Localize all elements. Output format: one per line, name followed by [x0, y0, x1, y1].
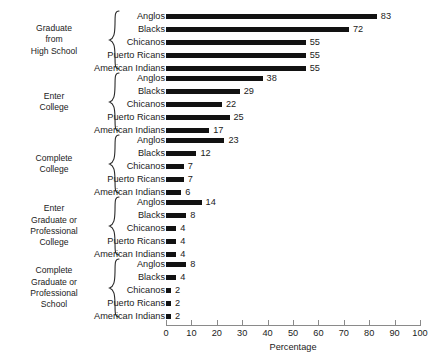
- bar: [166, 14, 377, 20]
- x-axis-tick: [293, 320, 294, 326]
- bar-track: 12: [166, 147, 422, 160]
- bar-track: 55: [166, 36, 422, 49]
- x-axis-tick: [344, 320, 345, 326]
- bar-value-label: 4: [180, 235, 185, 248]
- x-axis-tick: [369, 320, 370, 326]
- x-axis-tick: [242, 320, 243, 326]
- bar-track: 4: [166, 235, 422, 248]
- category-label: Chicanos: [127, 284, 165, 297]
- chart-row: Chicanos7: [0, 160, 436, 173]
- bar: [166, 275, 176, 281]
- bar-track: 38: [166, 72, 422, 85]
- chart-group: Enter CollegeAnglos38Blacks29Chicanos22P…: [0, 68, 436, 136]
- bar-value-label: 29: [244, 85, 254, 98]
- bar: [166, 177, 184, 183]
- bar-track: 14: [166, 196, 422, 209]
- bar-track: 8: [166, 209, 422, 222]
- chart-group: Graduate from High SchoolAnglos83Blacks7…: [0, 6, 436, 74]
- bar-track: 72: [166, 23, 422, 36]
- chart-row: Anglos83: [0, 10, 436, 23]
- bar-track: 7: [166, 173, 422, 186]
- bar-track: 8: [166, 258, 422, 271]
- chart-row: Puerto Ricans4: [0, 235, 436, 248]
- bar-track: 25: [166, 111, 422, 124]
- x-axis-tick: [318, 320, 319, 326]
- chart-row: Anglos8: [0, 258, 436, 271]
- x-axis-tick-label: 60: [313, 327, 323, 339]
- category-label: Blacks: [138, 271, 165, 284]
- category-label: Chicanos: [127, 98, 165, 111]
- category-label: Blacks: [138, 85, 165, 98]
- category-label: Puerto Ricans: [107, 49, 165, 62]
- x-axis-tick-label: 20: [212, 327, 222, 339]
- bar: [166, 138, 224, 144]
- bar-value-label: 55: [310, 36, 320, 49]
- chart-row: Puerto Ricans55: [0, 49, 436, 62]
- category-label: Puerto Ricans: [107, 297, 165, 310]
- x-axis-tick: [268, 320, 269, 326]
- chart-group: Complete Graduate or Professional School…: [0, 254, 436, 322]
- x-axis-tick: [166, 320, 167, 326]
- bar-value-label: 8: [190, 258, 195, 271]
- category-label: Anglos: [137, 134, 165, 147]
- category-label: Anglos: [137, 258, 165, 271]
- bar: [166, 288, 171, 294]
- chart-row: Anglos14: [0, 196, 436, 209]
- chart-row: Chicanos4: [0, 222, 436, 235]
- bar-value-label: 2: [175, 284, 180, 297]
- bar: [166, 102, 222, 108]
- bar-value-label: 25: [234, 111, 244, 124]
- group-rows: Anglos23Blacks12Chicanos7Puerto Ricans7A…: [0, 134, 436, 199]
- bar-track: 83: [166, 10, 422, 23]
- category-label: Puerto Ricans: [107, 111, 165, 124]
- category-label: Puerto Ricans: [107, 173, 165, 186]
- x-axis-tick: [395, 320, 396, 326]
- bar-value-label: 72: [353, 23, 363, 36]
- bar-track: 4: [166, 271, 422, 284]
- bar: [166, 76, 263, 82]
- group-rows: Anglos14Blacks8Chicanos4Puerto Ricans4Am…: [0, 196, 436, 261]
- bar: [166, 164, 184, 170]
- x-axis-tick-label: 10: [186, 327, 196, 339]
- bar-track: 23: [166, 134, 422, 147]
- bar-track: 2: [166, 297, 422, 310]
- bar-track: 7: [166, 160, 422, 173]
- chart-row: Chicanos22: [0, 98, 436, 111]
- group-rows: Anglos38Blacks29Chicanos22Puerto Ricans2…: [0, 72, 436, 137]
- x-axis-tick-label: 30: [237, 327, 247, 339]
- chart-row: Blacks12: [0, 147, 436, 160]
- category-label: Chicanos: [127, 36, 165, 49]
- category-label: Puerto Ricans: [107, 235, 165, 248]
- bar-value-label: 22: [226, 98, 236, 111]
- bar-value-label: 8: [190, 209, 195, 222]
- bar-track: 55: [166, 49, 422, 62]
- chart-row: Blacks4: [0, 271, 436, 284]
- x-axis-tick: [420, 320, 421, 326]
- bar-value-label: 7: [188, 160, 193, 173]
- bar-value-label: 7: [188, 173, 193, 186]
- x-axis-title: Percentage: [166, 342, 420, 352]
- bar-value-label: 23: [228, 134, 238, 147]
- bar-track: 29: [166, 85, 422, 98]
- category-label: Chicanos: [127, 160, 165, 173]
- category-label: Anglos: [137, 10, 165, 23]
- education-attainment-bar-chart: Graduate from High SchoolAnglos83Blacks7…: [0, 0, 436, 361]
- chart-row: Puerto Ricans2: [0, 297, 436, 310]
- bar-track: 2: [166, 284, 422, 297]
- chart-row: Anglos23: [0, 134, 436, 147]
- category-label: Chicanos: [127, 222, 165, 235]
- x-axis-tick: [217, 320, 218, 326]
- bar-track: 22: [166, 98, 422, 111]
- chart-group: Complete CollegeAnglos23Blacks12Chicanos…: [0, 130, 436, 198]
- bar: [166, 115, 230, 121]
- bar: [166, 262, 186, 268]
- bar-value-label: 2: [175, 297, 180, 310]
- bar-value-label: 12: [200, 147, 210, 160]
- bar: [166, 27, 349, 33]
- x-axis-tick-label: 0: [163, 327, 168, 339]
- bar: [166, 89, 240, 95]
- category-label: Blacks: [138, 147, 165, 160]
- category-label: Anglos: [137, 196, 165, 209]
- bar-value-label: 4: [180, 222, 185, 235]
- bar: [166, 239, 176, 245]
